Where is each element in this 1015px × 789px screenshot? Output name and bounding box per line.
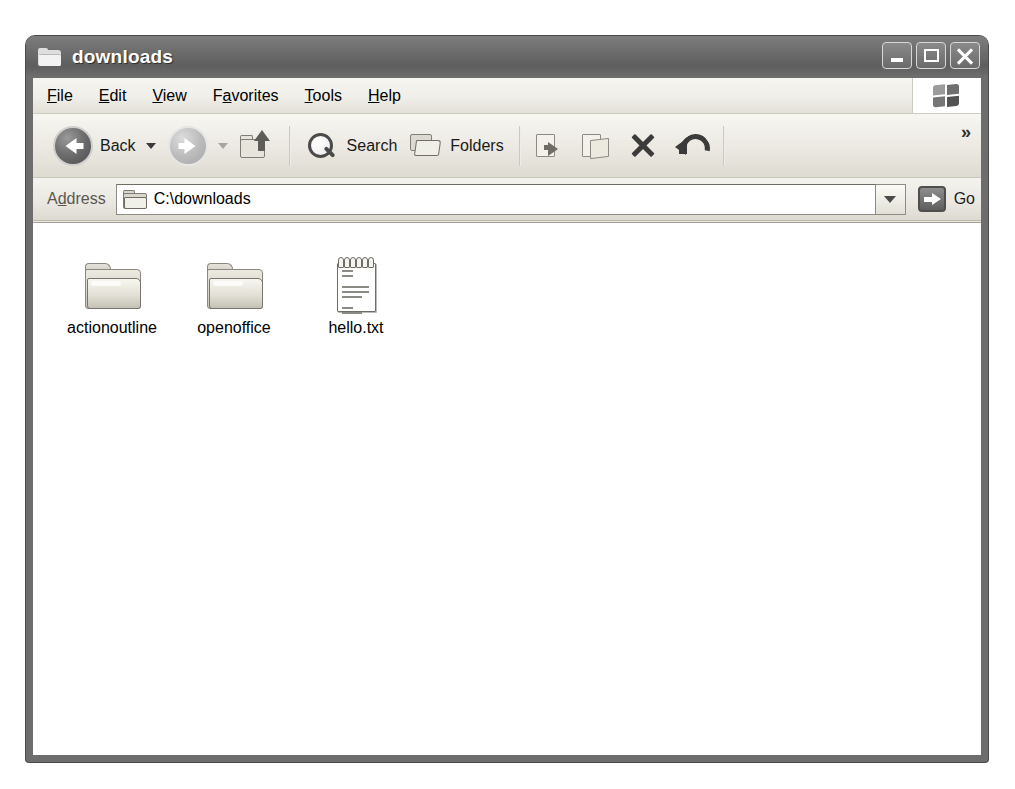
list-item[interactable]: openoffice [173,245,295,337]
text-file-icon [334,257,378,311]
folder-icon [205,263,263,311]
folder-icon [123,190,146,208]
back-dropdown-icon[interactable] [146,143,156,149]
go-label: Go [954,190,975,208]
menu-item-edit[interactable]: Edit [99,87,127,105]
window-controls [882,42,980,69]
window-title: downloads [72,46,173,68]
folder-icon [83,263,141,311]
copy-to-button[interactable] [576,122,622,170]
file-label: openoffice [197,319,271,337]
folders-button[interactable]: Folders [403,122,509,170]
address-value: C:\downloads [154,190,251,208]
back-button[interactable]: Back [47,122,162,170]
menu-bar: File Edit View Favorites Tools Help [33,78,981,114]
back-arrow-icon [53,126,93,166]
toolbar: Back [33,114,981,178]
file-label: hello.txt [328,319,383,337]
up-folder-icon [240,130,274,162]
delete-button[interactable] [622,122,668,170]
maximize-icon [924,49,939,62]
menu-item-tools[interactable]: Tools [305,87,342,105]
forward-arrow-icon [168,126,208,166]
undo-icon [674,130,708,162]
address-dropdown-button[interactable] [876,184,906,215]
maximize-button[interactable] [916,42,946,69]
delete-icon [628,130,662,162]
menu-item-file[interactable]: File [47,87,73,105]
go-arrow-icon [918,186,946,212]
close-button[interactable] [950,42,980,69]
back-label: Back [100,137,136,155]
folders-label: Folders [450,137,503,155]
toolbar-overflow-button[interactable]: » [961,122,969,143]
folder-icon [38,48,62,67]
toolbar-separator [519,126,521,166]
menu-item-help[interactable]: Help [368,87,401,105]
window-client-area: File Edit View Favorites Tools Help Back [33,78,981,755]
move-to-icon [536,130,570,162]
address-bar: Address C:\downloads [33,178,981,221]
file-list-area[interactable]: actionoutline openoffice [33,222,981,755]
chevron-down-icon [884,196,896,203]
menu-item-view[interactable]: View [152,87,186,105]
search-button[interactable]: Search [300,122,404,170]
up-button[interactable] [234,122,280,170]
undo-button[interactable] [668,122,714,170]
toolbar-separator [723,126,725,166]
search-icon [306,130,340,162]
address-input[interactable]: C:\downloads [116,184,876,215]
move-to-button[interactable] [530,122,576,170]
file-items: actionoutline openoffice [51,245,981,337]
copy-to-icon [582,130,616,162]
screenshot-root: downloads File Edit View [0,0,1015,789]
explorer-window: downloads File Edit View [26,36,988,762]
toolbar-separator [289,126,291,166]
list-item[interactable]: hello.txt [295,245,417,337]
minimize-button[interactable] [882,42,912,69]
go-button[interactable]: Go [918,186,975,212]
windows-flag-icon [912,78,981,113]
forward-button[interactable] [162,122,234,170]
search-label: Search [347,137,398,155]
minimize-icon [891,58,903,62]
file-label: actionoutline [67,319,157,337]
folders-icon [409,130,443,162]
menu-item-favorites[interactable]: Favorites [213,87,279,105]
address-label: Address [47,190,106,208]
list-item[interactable]: actionoutline [51,245,173,337]
forward-dropdown-icon[interactable] [218,143,228,149]
title-bar[interactable]: downloads [26,36,988,78]
